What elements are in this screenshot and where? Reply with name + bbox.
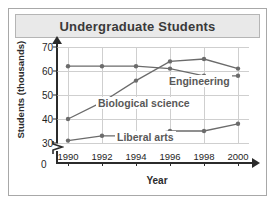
x-tick-label-1992: 1992 [91, 151, 112, 162]
x-tick-mark-2000 [238, 162, 239, 166]
series-label-biological-science: Biological science [96, 97, 192, 109]
y-tick-mark-60 [53, 71, 58, 72]
y-tick-mark-70 [53, 47, 58, 48]
x-tick-label-2000: 2000 [227, 151, 248, 162]
data-point [134, 78, 138, 82]
data-point [236, 66, 240, 70]
data-point [100, 134, 104, 138]
data-point [202, 57, 206, 61]
x-tick-label-1990: 1990 [57, 151, 78, 162]
y-tick-label-30: 30 [42, 138, 53, 149]
page-title: Undergraduate Students [59, 19, 215, 34]
y-tick-mark-40 [53, 119, 58, 120]
plot-area: 30 40 50 60 70 1990 1992 1994 1996 1998 … [57, 47, 249, 143]
y-tick-label-60: 60 [42, 66, 53, 77]
data-point [202, 129, 206, 133]
y-axis-arrow-icon [52, 36, 62, 44]
data-point [134, 64, 138, 68]
data-point [66, 138, 70, 142]
series-label-liberal-arts: Liberal arts [115, 131, 176, 143]
x-tick-label-1996: 1996 [159, 151, 180, 162]
y-tick-label-70: 70 [42, 42, 53, 53]
data-point [66, 64, 70, 68]
data-series-layer [57, 47, 249, 143]
x-axis-label: Year [57, 175, 257, 186]
x-tick-label-1994: 1994 [125, 151, 146, 162]
chart-title-bar: Undergraduate Students [15, 14, 260, 38]
data-point [66, 117, 70, 121]
y-tick-mark-50 [53, 95, 58, 96]
y-axis-label: Students (thousands) [15, 43, 26, 139]
data-point [168, 66, 172, 70]
x-tick-mark-1998 [204, 162, 205, 166]
x-tick-mark-1994 [136, 162, 137, 166]
data-point [236, 122, 240, 126]
x-tick-mark-1992 [102, 162, 103, 166]
x-tick-label-1998: 1998 [193, 151, 214, 162]
series-label-engineering: Engineering [167, 75, 232, 87]
data-point [236, 74, 240, 78]
x-tick-mark-1996 [170, 162, 171, 166]
data-point [168, 59, 172, 63]
y-tick-label-40: 40 [42, 114, 53, 125]
y-tick-mark-30 [53, 143, 58, 144]
x-tick-mark-1990 [68, 162, 69, 166]
data-point [100, 64, 104, 68]
y-tick-label-zero: 0 [41, 159, 47, 170]
x-axis-arrow-icon [252, 158, 260, 168]
gridline-h-30 [57, 143, 249, 144]
chart-figure: Undergraduate Students Students (thousan… [8, 8, 267, 196]
x-axis-line [56, 162, 253, 164]
y-tick-label-50: 50 [42, 90, 53, 101]
plot-wrapper: Students (thousands) Year 0 30 [9, 41, 268, 195]
